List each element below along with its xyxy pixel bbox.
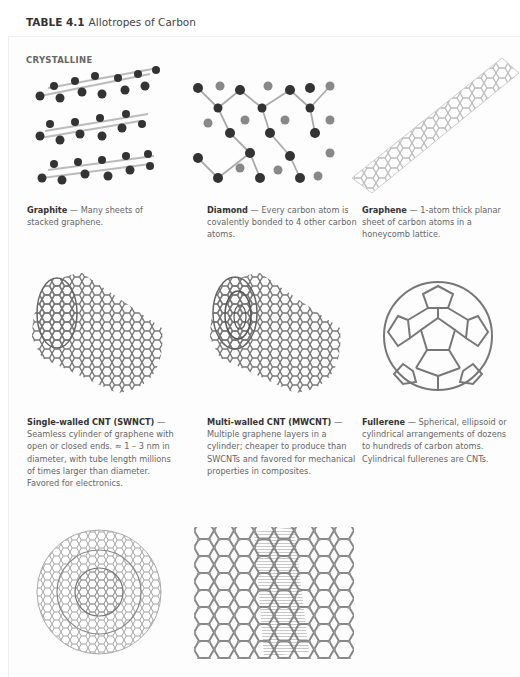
allotrope-description: Seamless cylinder of graphene with open … bbox=[27, 429, 174, 488]
caption-mwcnt: Multi-walled CNT (MWCNT) — Multiple grap… bbox=[207, 416, 357, 477]
caption-graphene: Graphene — 1-atom thick planar sheet of … bbox=[362, 204, 512, 241]
section-title: CRYSTALLINE bbox=[26, 55, 93, 65]
graphene-structure-icon bbox=[352, 58, 519, 193]
allotrope-name: Multi-walled CNT (MWCNT) bbox=[207, 417, 331, 427]
table-title-text: Allotropes of Carbon bbox=[89, 16, 196, 28]
caption-swcnt: Single-walled CNT (SWNCT) — Seamless cyl… bbox=[27, 416, 179, 489]
allotrope-name: Graphite bbox=[27, 205, 67, 215]
allotrope-description: Multiple graphene layers in a cylinder; … bbox=[207, 429, 355, 476]
diamond-structure-icon bbox=[190, 78, 350, 193]
nested-fullerene-structure-icon bbox=[34, 524, 164, 659]
caption-fullerene: Fullerene — Spherical, ellipsoid or cyli… bbox=[362, 416, 512, 465]
allotrope-name: Graphene bbox=[362, 205, 407, 215]
swcnt-structure-icon bbox=[22, 268, 172, 398]
table-label: TABLE 4.1 bbox=[26, 16, 85, 28]
graphite-structure-icon bbox=[30, 66, 170, 191]
separator: — bbox=[407, 205, 420, 215]
separator: — bbox=[405, 417, 418, 427]
table-title: TABLE 4.1Allotropes of Carbon bbox=[26, 16, 196, 28]
allotrope-name: Fullerene bbox=[362, 417, 405, 427]
caption-graphite: Graphite — Many sheets of stacked graphe… bbox=[27, 204, 177, 228]
lonsdaleite-structure-icon bbox=[194, 522, 354, 662]
separator: — bbox=[331, 417, 342, 427]
separator: — bbox=[67, 205, 80, 215]
allotrope-name: Single-walled CNT (SWNCT) bbox=[27, 417, 154, 427]
allotrope-name: Diamond bbox=[207, 205, 248, 215]
separator: — bbox=[248, 205, 261, 215]
mwcnt-structure-icon bbox=[200, 268, 350, 398]
fullerene-structure-icon bbox=[378, 276, 498, 396]
separator: — bbox=[154, 417, 165, 427]
caption-diamond: Diamond — Every carbon atom is covalentl… bbox=[207, 204, 357, 241]
